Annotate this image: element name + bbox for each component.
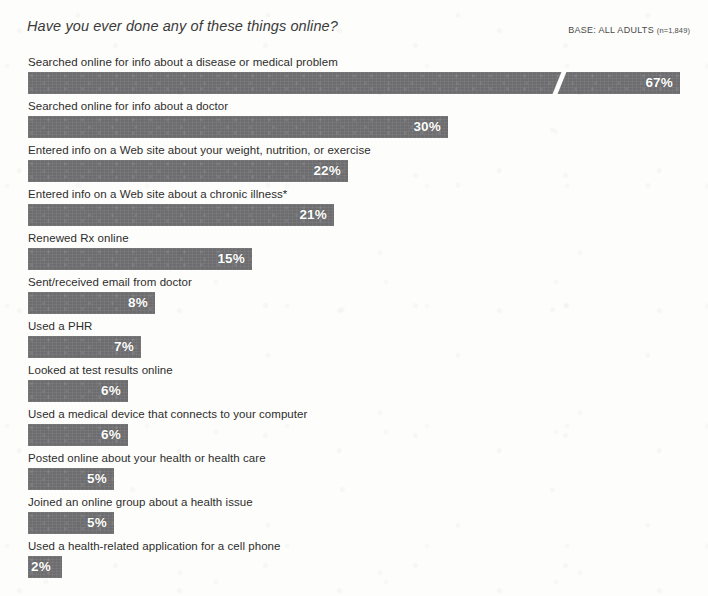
bar xyxy=(28,204,334,226)
bar-category-label: Used a health-related application for a … xyxy=(28,540,280,552)
bar-value-label: 6% xyxy=(101,380,121,402)
bar-category-label: Entered info on a Web site about a chron… xyxy=(28,188,287,200)
bar-value-label: 6% xyxy=(101,424,121,446)
bar-track: 22% xyxy=(28,160,348,182)
bar xyxy=(28,160,348,182)
bar-track: 2% xyxy=(28,556,62,578)
bar-category-label: Renewed Rx online xyxy=(28,232,129,244)
base-note: BASE: ALL ADULTS (n=1,849) xyxy=(568,25,690,35)
bar-track: 7% xyxy=(28,336,141,358)
bar-category-label: Posted online about your health or healt… xyxy=(28,452,266,464)
bar-value-label: 21% xyxy=(299,204,327,226)
bar-value-label: 30% xyxy=(413,116,441,138)
chart-header: Have you ever done any of these things o… xyxy=(0,0,708,50)
bar xyxy=(28,116,448,138)
bar-value-label: 22% xyxy=(313,160,341,182)
bar-track: 6% xyxy=(28,380,128,402)
bar-category-label: Used a medical device that connects to y… xyxy=(28,408,307,420)
bar-track: 6% xyxy=(28,424,128,446)
page-title: Have you ever done any of these things o… xyxy=(27,18,338,34)
bar-track: 5% xyxy=(28,468,114,490)
bar-category-label: Joined an online group about a health is… xyxy=(28,496,253,508)
bar-value-label: 7% xyxy=(114,336,134,358)
bar-category-label: Searched online for info about a disease… xyxy=(28,56,338,68)
base-note-sample-size: (n=1,849) xyxy=(657,26,690,35)
axis-break-icon xyxy=(549,71,569,95)
bar-chart-plot: Searched online for info about a disease… xyxy=(0,50,708,596)
bar-category-label: Looked at test results online xyxy=(28,364,173,376)
bar-value-label: 5% xyxy=(87,468,107,490)
chart-sheet: Have you ever done any of these things o… xyxy=(0,0,708,596)
base-note-prefix: BASE: ALL ADULTS xyxy=(568,25,654,35)
bar xyxy=(28,72,680,94)
bar-track: 21% xyxy=(28,204,334,226)
bar-category-label: Sent/received email from doctor xyxy=(28,276,192,288)
bar-value-label: 67% xyxy=(645,72,673,94)
bar-track: 8% xyxy=(28,292,155,314)
bar-value-label: 5% xyxy=(87,512,107,534)
bar-track: 5% xyxy=(28,512,114,534)
bar-track: 30% xyxy=(28,116,448,138)
bar-value-label: 15% xyxy=(217,248,245,270)
bar-category-label: Used a PHR xyxy=(28,320,92,332)
bar-category-label: Entered info on a Web site about your we… xyxy=(28,144,371,156)
bar-category-label: Searched online for info about a doctor xyxy=(28,100,228,112)
bar-value-label: 8% xyxy=(128,292,148,314)
bar-track: 15% xyxy=(28,248,252,270)
bar-track: 67% xyxy=(28,72,680,94)
bar-value-label: 2% xyxy=(31,556,51,578)
